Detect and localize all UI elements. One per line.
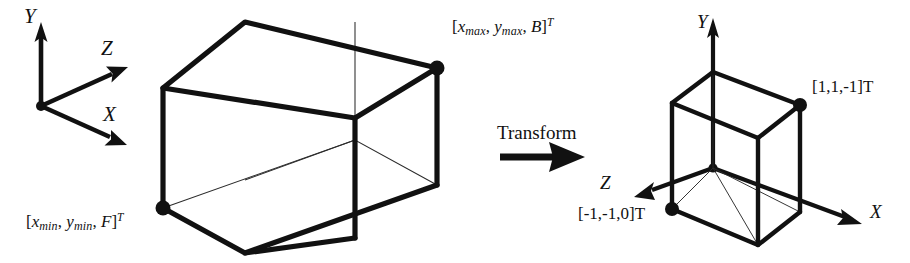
left-box-far-corner-label: [xmax, ymax, B]T xyxy=(452,17,553,37)
right-box-far-corner-label: [1,1,-1]T xyxy=(812,78,873,95)
left-box-group xyxy=(156,22,445,253)
right-axis-x-line xyxy=(713,168,845,217)
transform-label: Transform xyxy=(497,123,577,142)
left-box-edge-bottom-front xyxy=(163,185,437,253)
far-z-var: B xyxy=(531,17,541,36)
right-far-vec: [1,1,-1] xyxy=(812,77,863,96)
left-axis-z-line xyxy=(41,74,112,106)
near-y-sub: min xyxy=(74,219,93,233)
figure-root: Y Z X [xmax, ymax, B]T [xmin, ymin, F]T … xyxy=(0,0,910,263)
right-box-near-corner-label: [-1,-1,0]T xyxy=(578,205,645,222)
right-near-vec: [-1,-1,0] xyxy=(578,204,635,223)
right-box-edge-top-face xyxy=(672,72,800,138)
left-axis-z-label: Z xyxy=(101,38,113,59)
left-axis-x-line xyxy=(41,106,110,137)
left-box-near-corner-label: [xmin, ymin, F]T xyxy=(26,212,123,232)
near-z-var: F xyxy=(101,212,111,231)
right-axis-y-label: Y xyxy=(697,12,708,31)
left-axis-x-label: X xyxy=(103,104,116,125)
near-y-var: y xyxy=(66,212,74,231)
right-box-near-corner-dot xyxy=(665,202,679,216)
right-box-far-corner-dot xyxy=(793,98,807,112)
right-box-edge-bottom-front xyxy=(672,209,800,245)
far-y-var: y xyxy=(494,17,502,36)
right-far-transpose: T xyxy=(863,77,873,96)
far-y-sub: max xyxy=(502,24,523,38)
near-sep2: , xyxy=(92,212,101,231)
right-axis-z-line xyxy=(652,168,713,190)
diagram-canvas xyxy=(0,0,910,263)
right-near-transpose: T xyxy=(635,204,645,223)
right-axis-z-label: Z xyxy=(600,173,611,192)
near-transpose: T xyxy=(117,211,123,223)
far-sep2: , xyxy=(522,17,531,36)
right-axis-z-arrowhead xyxy=(634,182,655,200)
far-transpose: T xyxy=(547,16,553,28)
left-axes-group xyxy=(35,22,129,146)
transform-arrow-head xyxy=(549,142,585,172)
left-box-near-corner-dot xyxy=(156,201,171,216)
left-axes-origin-dot xyxy=(36,101,46,111)
right-axes-group xyxy=(634,18,862,225)
left-axis-y-label: Y xyxy=(24,6,36,27)
near-x-sub: min xyxy=(39,219,58,233)
left-box-far-corner-dot xyxy=(430,61,445,76)
left-box-hidden-edge-bottom-left xyxy=(245,140,355,180)
right-box-group xyxy=(665,72,807,245)
transform-arrow-group xyxy=(500,142,585,172)
left-box-edge-top-face xyxy=(163,22,437,118)
far-x-sub: max xyxy=(465,24,486,38)
right-axis-x-label: X xyxy=(870,202,882,221)
